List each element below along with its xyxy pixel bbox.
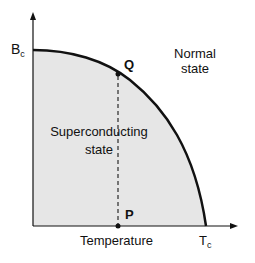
superconducting-state-line1: Superconducting xyxy=(34,124,164,139)
superconducting-state-line2: state xyxy=(34,142,164,157)
y-axis-label-main: B xyxy=(11,41,20,57)
normal-state-label: Normal state xyxy=(160,46,230,76)
superconducting-state-label: Superconducting state xyxy=(34,124,164,157)
point-q-label: Q xyxy=(124,57,134,72)
y-axis-label: Bc xyxy=(11,42,25,62)
normal-state-line1: Normal xyxy=(160,46,230,61)
point-p-label: P xyxy=(125,207,134,222)
x-axis-end-main: T xyxy=(199,233,207,248)
x-axis-end-label: Tc xyxy=(199,233,211,253)
x-axis-arrow-icon xyxy=(230,223,238,229)
x-axis-end-sub: c xyxy=(207,240,212,250)
y-axis-arrow-icon xyxy=(30,12,36,20)
x-axis-label: Temperature xyxy=(80,233,153,248)
normal-state-line2: state xyxy=(160,61,230,76)
point-p-dot xyxy=(116,224,121,229)
y-axis-label-sub: c xyxy=(20,49,25,59)
point-q-dot xyxy=(116,72,121,77)
